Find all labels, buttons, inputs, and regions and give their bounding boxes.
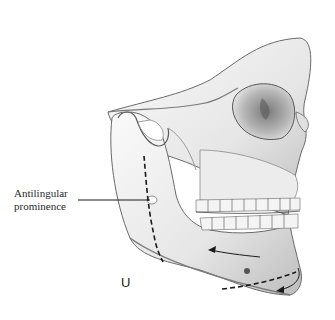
skull-drawing bbox=[0, 0, 335, 320]
skull-illustration: Antilingular prominence U bbox=[0, 0, 335, 320]
antilingular-prominence-label: Antilingular prominence bbox=[14, 187, 68, 213]
panel-letter: U bbox=[121, 275, 130, 290]
